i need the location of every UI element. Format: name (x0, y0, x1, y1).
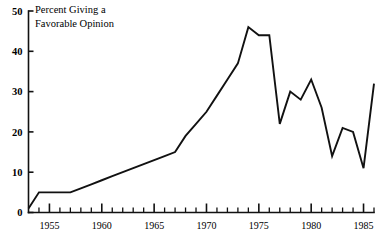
x-axis-tick-label: 1975 (249, 220, 269, 231)
y-axis-tick-labels: 01020304050 (12, 6, 23, 219)
x-axis-tick-label: 1970 (196, 220, 216, 231)
y-axis-tick-label: 0 (17, 207, 22, 218)
x-axis-ticks (39, 204, 374, 213)
x-axis-tick-label: 1980 (301, 220, 321, 231)
x-axis-tick-labels: 1955196019651970197519801985 (39, 220, 373, 231)
chart-container: 01020304050 1955196019651970197519801985… (0, 0, 388, 240)
y-axis-tick-label: 50 (12, 6, 23, 17)
x-axis-tick-label: 1955 (39, 220, 59, 231)
chart-caption-line1: Percent Giving a (35, 4, 106, 15)
y-axis-tick-label: 10 (12, 167, 23, 178)
y-axis-tick-label: 20 (12, 127, 23, 138)
data-series-line (29, 27, 375, 208)
x-axis-tick-label: 1960 (92, 220, 112, 231)
line-chart: 01020304050 1955196019651970197519801985… (0, 0, 388, 240)
y-axis-tick-label: 40 (12, 46, 23, 57)
x-axis-tick-label: 1985 (354, 220, 374, 231)
x-axis-tick-label: 1965 (144, 220, 164, 231)
chart-caption-line2: Favorable Opinion (35, 18, 115, 29)
y-axis-tick-label: 30 (12, 86, 23, 97)
